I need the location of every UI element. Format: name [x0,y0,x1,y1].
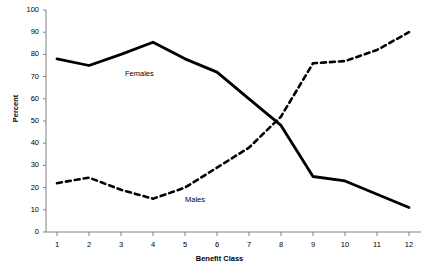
x-tick-label: 5 [175,240,195,249]
y-tick-label: 80 [13,49,39,58]
x-tick-label: 6 [207,240,227,249]
x-axis-title: Benefit Class [0,254,439,263]
x-tick-label: 7 [239,240,259,249]
x-tick-label: 3 [111,240,131,249]
y-axis-title: Percent [11,79,20,139]
x-tick-label: 4 [143,240,163,249]
x-tick-label: 1 [47,240,67,249]
y-tick-label: 30 [13,160,39,169]
series-label-males: Males [185,195,205,204]
y-tick-label: 10 [13,205,39,214]
series-label-females: Females [125,69,154,78]
x-tick-label: 12 [399,240,419,249]
x-tick-label: 2 [79,240,99,249]
y-tick-label: 100 [13,5,39,14]
x-tick-label: 8 [271,240,291,249]
data-series-layer [57,32,409,207]
x-tick-label: 10 [335,240,355,249]
series-line-females [57,42,409,207]
axis-lines [46,10,421,232]
x-tick-label: 11 [367,240,387,249]
line-chart: 0102030405060708090100 123456789101112 P… [0,0,439,274]
x-tick-marks [57,232,409,236]
x-tick-label: 9 [303,240,323,249]
y-tick-label: 90 [13,27,39,36]
y-tick-label: 0 [13,227,39,236]
y-tick-label: 20 [13,183,39,192]
y-tick-label: 40 [13,138,39,147]
plot-area [0,0,439,274]
